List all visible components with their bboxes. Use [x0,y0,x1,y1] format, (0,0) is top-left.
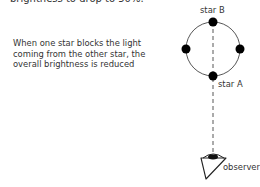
star-a-label: star A [218,79,243,89]
star-a-dot [209,72,218,81]
star-b-label: star B [200,5,225,15]
star-right-dot [236,45,245,54]
binary-star-diagram [0,0,260,187]
observer-label: observer [223,162,260,172]
star-left-dot [182,45,191,54]
star-b-dot [209,18,218,27]
